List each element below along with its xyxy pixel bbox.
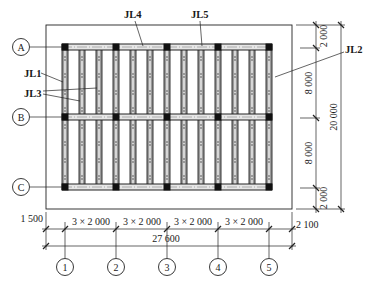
dim-bay-1-2: 3 × 2 000 xyxy=(72,216,110,227)
row-axis-label: A xyxy=(17,42,25,53)
row-axis-a: A xyxy=(13,39,63,56)
row-axis-label: C xyxy=(18,182,25,193)
dim-top-overhang: 2 000 xyxy=(318,25,329,48)
column xyxy=(266,44,273,51)
foundation-beam-plan: A B C JL4 JL5 JL1 JL3 JL2 xyxy=(0,0,375,291)
label-jl1: JL1 xyxy=(24,68,63,82)
dim-bay-3-4: 3 × 2 000 xyxy=(174,216,212,227)
column xyxy=(164,44,171,51)
column-axis-label: 5 xyxy=(267,262,272,273)
column-axis-label: 1 xyxy=(63,262,68,273)
column xyxy=(62,44,69,51)
column xyxy=(164,184,171,191)
column-axis-label: 2 xyxy=(114,262,119,273)
column xyxy=(266,114,273,121)
right-dimensions: 2 000 8 000 8 000 2 000 20 000 xyxy=(296,21,345,213)
column xyxy=(215,114,222,121)
label-jl2: JL2 xyxy=(275,44,363,77)
column xyxy=(62,184,69,191)
dim-left-overhang: 1 500 xyxy=(21,213,44,224)
column-axis-label: 3 xyxy=(165,262,170,273)
column-axis-2: 2 xyxy=(108,259,125,276)
column xyxy=(113,184,120,191)
column-axes: 1 2 3 4 5 xyxy=(57,259,278,276)
dim-right-overhang: 2 100 xyxy=(296,219,319,230)
row-axis-c: C xyxy=(13,179,63,196)
column xyxy=(266,184,273,191)
label-jl3: JL3 xyxy=(24,88,97,101)
beam-label: JL4 xyxy=(124,9,142,20)
column xyxy=(164,114,171,121)
dim-bay-4-5: 3 × 2 000 xyxy=(225,216,263,227)
beam-label: JL5 xyxy=(191,9,209,20)
bottom-dimensions: 1 500 3 × 2 000 3 × 2 000 3 × 2 000 3 × … xyxy=(21,212,319,258)
column-axis-label: 4 xyxy=(216,262,221,273)
dim-bottom-overhang: 2 000 xyxy=(318,187,329,210)
column-axis-5: 5 xyxy=(261,259,278,276)
beam-label: JL1 xyxy=(24,68,42,79)
dim-bay-bc: 8 000 xyxy=(303,142,314,165)
column xyxy=(215,44,222,51)
column xyxy=(215,184,222,191)
label-jl4: JL4 xyxy=(124,9,143,46)
dim-overall-height: 20 000 xyxy=(328,103,339,131)
column xyxy=(62,114,69,121)
beam-label: JL3 xyxy=(24,88,42,99)
column-axis-3: 3 xyxy=(159,259,176,276)
dim-bay-2-3: 3 × 2 000 xyxy=(123,216,161,227)
dim-bay-ab: 8 000 xyxy=(303,72,314,95)
column-axis-4: 4 xyxy=(210,259,227,276)
column-axis-1: 1 xyxy=(57,259,74,276)
column xyxy=(113,114,120,121)
label-jl5: JL5 xyxy=(191,9,209,46)
column xyxy=(113,44,120,51)
row-axis-label: B xyxy=(18,112,25,123)
row-axis-b: B xyxy=(13,109,63,126)
dim-overall-width: 27 600 xyxy=(152,233,180,244)
beam-label: JL2 xyxy=(345,44,363,55)
